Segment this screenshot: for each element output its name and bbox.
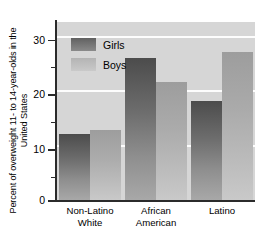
bar-girls-latino bbox=[191, 101, 222, 200]
x-label-latino: Latino bbox=[189, 205, 255, 228]
bar-boys-latino bbox=[222, 52, 253, 200]
y-tick-15 bbox=[51, 122, 56, 124]
plot-area: Girls Boys bbox=[57, 22, 255, 200]
legend-item-boys: Boys bbox=[71, 58, 126, 71]
x-label-non-latino-white: Non-Latino White bbox=[57, 205, 123, 228]
x-label-african-american: African American bbox=[123, 205, 189, 228]
legend-label-girls: Girls bbox=[103, 39, 125, 51]
legend-item-girls: Girls bbox=[71, 38, 126, 51]
y-tick-25 bbox=[51, 67, 56, 69]
y-tick-0 bbox=[48, 200, 56, 202]
bar-boys-african-american bbox=[156, 82, 187, 200]
y-tick-label-0: 0 bbox=[21, 194, 45, 206]
bar-girls-african-american bbox=[125, 58, 156, 200]
x-axis-line bbox=[55, 200, 255, 202]
y-tick-label-10: 10 bbox=[21, 143, 45, 155]
bar-group-african-american bbox=[123, 22, 189, 200]
x-label-line1: Latino bbox=[189, 205, 255, 217]
bar-chart: Percent of overweight 11- to 14-year-old… bbox=[0, 0, 259, 241]
x-label-line2: White bbox=[57, 217, 123, 229]
legend-swatch-boys bbox=[71, 58, 96, 71]
y-tick-5 bbox=[51, 177, 56, 179]
y-tick-label-30: 30 bbox=[21, 34, 45, 46]
y-tick-30 bbox=[48, 40, 56, 42]
y-tick-label-20: 20 bbox=[21, 88, 45, 100]
bar-boys-non-latino-white bbox=[90, 130, 121, 200]
x-axis-labels: Non-Latino White African American Latino bbox=[57, 205, 255, 228]
y-tick-20 bbox=[48, 94, 56, 96]
legend-swatch-girls bbox=[71, 38, 96, 51]
y-axis-title-text: Percent of overweight 11- to 14-year-old… bbox=[8, 23, 31, 218]
x-label-line1: Non-Latino bbox=[57, 205, 123, 217]
legend: Girls Boys bbox=[71, 38, 126, 78]
bar-girls-non-latino-white bbox=[59, 134, 90, 200]
x-label-line1: African bbox=[123, 205, 189, 217]
legend-label-boys: Boys bbox=[103, 59, 126, 71]
y-tick-10 bbox=[48, 149, 56, 151]
bar-group-latino bbox=[189, 22, 255, 200]
x-label-line2: American bbox=[123, 217, 189, 229]
y-axis-line bbox=[55, 20, 57, 202]
